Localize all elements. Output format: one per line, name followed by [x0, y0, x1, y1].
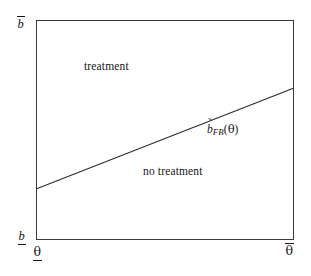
region-label-treatment: treatment	[84, 60, 129, 72]
curve-label-base-symbol: ˜b	[207, 123, 213, 135]
axis-label-b-max: b	[17, 18, 24, 31]
axis-label-theta-max: θ	[285, 245, 294, 258]
curve-label-subscript: FB	[213, 127, 224, 137]
b-overbar-glyph: b	[17, 18, 24, 31]
curve-label-close-paren: )	[235, 123, 239, 135]
theta-overbar-glyph: θ	[285, 245, 294, 258]
curve-label-b-fb: ˜bFB(θ)	[207, 122, 238, 137]
figure-root: treatment no treatment ˜bFB(θ) b b θ θ	[0, 0, 311, 276]
tilde-accent-icon: ˜	[208, 117, 212, 128]
axis-label-theta-min: θ	[33, 246, 42, 259]
b-underbar-glyph: b	[18, 230, 25, 243]
plot-frame	[36, 20, 294, 240]
curve-label-theta: θ	[228, 122, 235, 136]
axis-label-b-min: b	[18, 230, 25, 243]
theta-underbar-glyph: θ	[33, 246, 42, 259]
region-label-no-treatment: no treatment	[143, 165, 203, 177]
